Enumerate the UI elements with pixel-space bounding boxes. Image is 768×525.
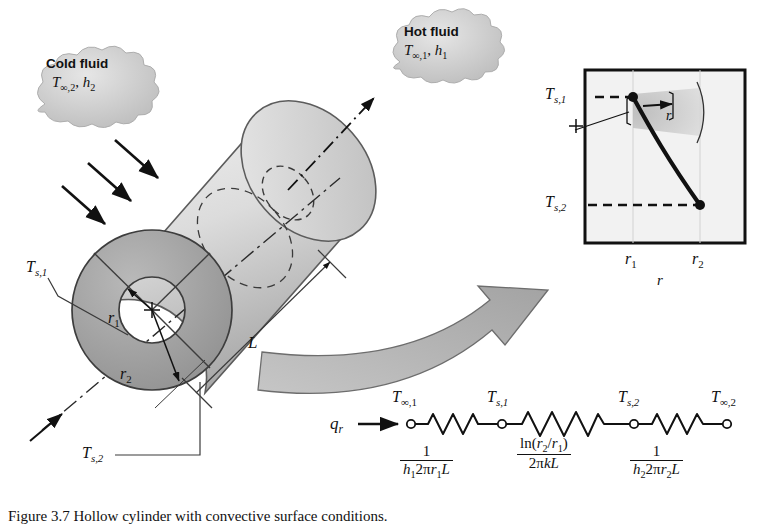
ts1-symbol: T <box>26 258 35 275</box>
res0-denominator: h12πr1L <box>400 460 453 480</box>
res1-denominator: 2πkL <box>517 454 571 472</box>
node0-symbol: T <box>392 388 401 405</box>
ts2-subscript: s,2 <box>91 452 103 464</box>
r2-subscript: 2 <box>126 373 131 385</box>
circuit-node <box>498 420 506 428</box>
inset-ts1-subscript: s,1 <box>554 93 566 105</box>
cylinder-near-annulus <box>72 230 232 390</box>
node3-symbol: T <box>711 388 720 405</box>
figure-caption: Figure 3.7 Hollow cylinder with convecti… <box>8 508 388 525</box>
resistor-inner-convection <box>415 414 498 434</box>
inset-xtick-r1: r1 <box>625 250 637 270</box>
res1-numerator: ln(r2/r1) <box>517 435 571 454</box>
circuit-node-label-0: T∞,1 <box>392 388 417 408</box>
circuit-node <box>723 420 731 428</box>
inset-ts2-symbol: T <box>545 193 554 210</box>
inset-ytick-ts2: Ts,2 <box>545 193 566 213</box>
inset-xtick-r2: r2 <box>692 250 704 270</box>
resistance-expression-inner: 1 h12πr1L <box>400 443 453 480</box>
node2-symbol: T <box>618 388 627 405</box>
resistance-expression-conduction: ln(r2/r1) 2πkL <box>517 435 571 472</box>
resistance-expression-outer: 1 h22πr2L <box>630 443 683 480</box>
cold-fluid-arrows <box>62 140 158 224</box>
node2-subscript: s,2 <box>627 396 639 408</box>
r1-subscript: 1 <box>114 317 119 329</box>
node1-subscript: s,1 <box>496 396 508 408</box>
res0-numerator: 1 <box>400 443 453 460</box>
qr-subscript: r <box>339 423 344 436</box>
thermal-circuit <box>358 412 731 436</box>
cold-T-subscript: ∞,2 <box>60 82 75 93</box>
resistor-outer-convection <box>638 414 723 434</box>
circuit-node-label-3: T∞,2 <box>711 388 736 408</box>
inset-xaxis-label: r <box>657 272 663 289</box>
axis-arrow <box>30 414 62 441</box>
inset-ytick-ts1: Ts,1 <box>545 85 566 105</box>
hot-fluid-title: Hot fluid <box>404 24 459 39</box>
inset-r1-subscript: 1 <box>631 258 636 270</box>
circuit-node-label-1: Ts,1 <box>487 388 508 408</box>
circuit-node <box>630 420 638 428</box>
node3-subscript: ∞,2 <box>720 396 736 408</box>
r1-label: r1 <box>108 309 120 329</box>
callout-arrow <box>258 286 548 393</box>
hot-fluid-conditions: T∞,1, h1 <box>404 42 447 61</box>
circuit-node <box>407 420 415 428</box>
ts2-label: Ts,2 <box>82 444 103 464</box>
cold-fluid-title: Cold fluid <box>46 56 108 71</box>
curve-endpoint-inner <box>628 92 638 102</box>
cold-h-subscript: 2 <box>90 82 95 93</box>
inset-r2-subscript: 2 <box>698 258 703 270</box>
res2-denominator: h22πr2L <box>630 460 683 480</box>
cold-fluid-conditions: T∞,2, h2 <box>52 74 95 93</box>
length-label: L <box>248 333 257 353</box>
ts2-leader <box>115 382 200 455</box>
ts2-symbol: T <box>82 444 91 461</box>
r2-label: r2 <box>120 365 132 385</box>
res2-numerator: 1 <box>630 443 683 460</box>
resistor-conduction <box>506 412 630 436</box>
temperature-profile-inset <box>569 70 745 243</box>
heat-rate-label: qr <box>330 414 343 436</box>
qr-symbol: q <box>330 414 339 433</box>
ts1-subscript: s,1 <box>35 266 47 278</box>
curve-endpoint-outer <box>695 200 705 210</box>
ts1-label: Ts,1 <box>26 258 47 278</box>
node1-symbol: T <box>487 388 496 405</box>
inset-ts1-symbol: T <box>545 85 554 102</box>
node0-subscript: ∞,1 <box>401 396 417 408</box>
inset-ts2-subscript: s,2 <box>554 201 566 213</box>
hot-h-subscript: 1 <box>442 50 447 61</box>
hot-T-subscript: ∞,1 <box>412 50 427 61</box>
circuit-node-label-2: Ts,2 <box>618 388 639 408</box>
inset-r-annotation: r <box>666 108 671 124</box>
